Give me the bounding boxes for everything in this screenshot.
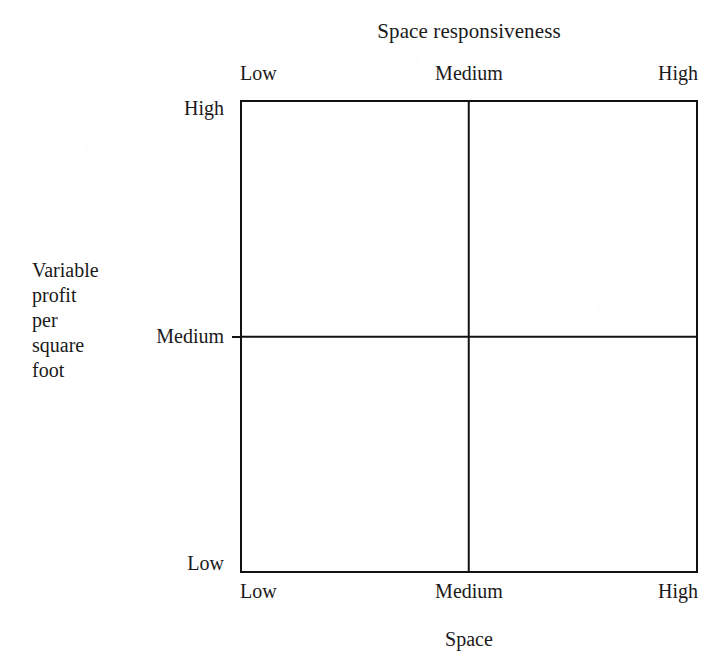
left-tick-mark-medium [232,336,241,338]
y-axis-title-line-3: per [32,308,222,333]
y-axis-title: Variable profit per square foot [32,258,222,383]
y-axis-title-line-4: square [32,333,222,358]
x-axis-title: Space [240,626,698,652]
matrix-figure: Space responsiveness Low Medium High Hig… [0,0,721,667]
bottom-tick-high: High [658,578,698,604]
left-tick-low: Low [187,551,224,575]
bottom-tick-medium: Medium [240,578,698,604]
horizontal-divider-line [242,335,696,337]
top-tick-medium: Medium [240,60,698,86]
bottom-axis-tick-labels: Low Medium High [240,578,698,608]
top-axis-title: Space responsiveness [240,18,698,44]
top-tick-high: High [658,60,698,86]
top-axis-tick-labels: Low Medium High [240,60,698,90]
y-axis-title-line-5: foot [32,358,222,383]
y-axis-title-line-2: profit [32,283,222,308]
left-tick-high: High [184,96,224,120]
y-axis-title-line-1: Variable [32,258,222,283]
matrix-plot-box [240,100,698,573]
